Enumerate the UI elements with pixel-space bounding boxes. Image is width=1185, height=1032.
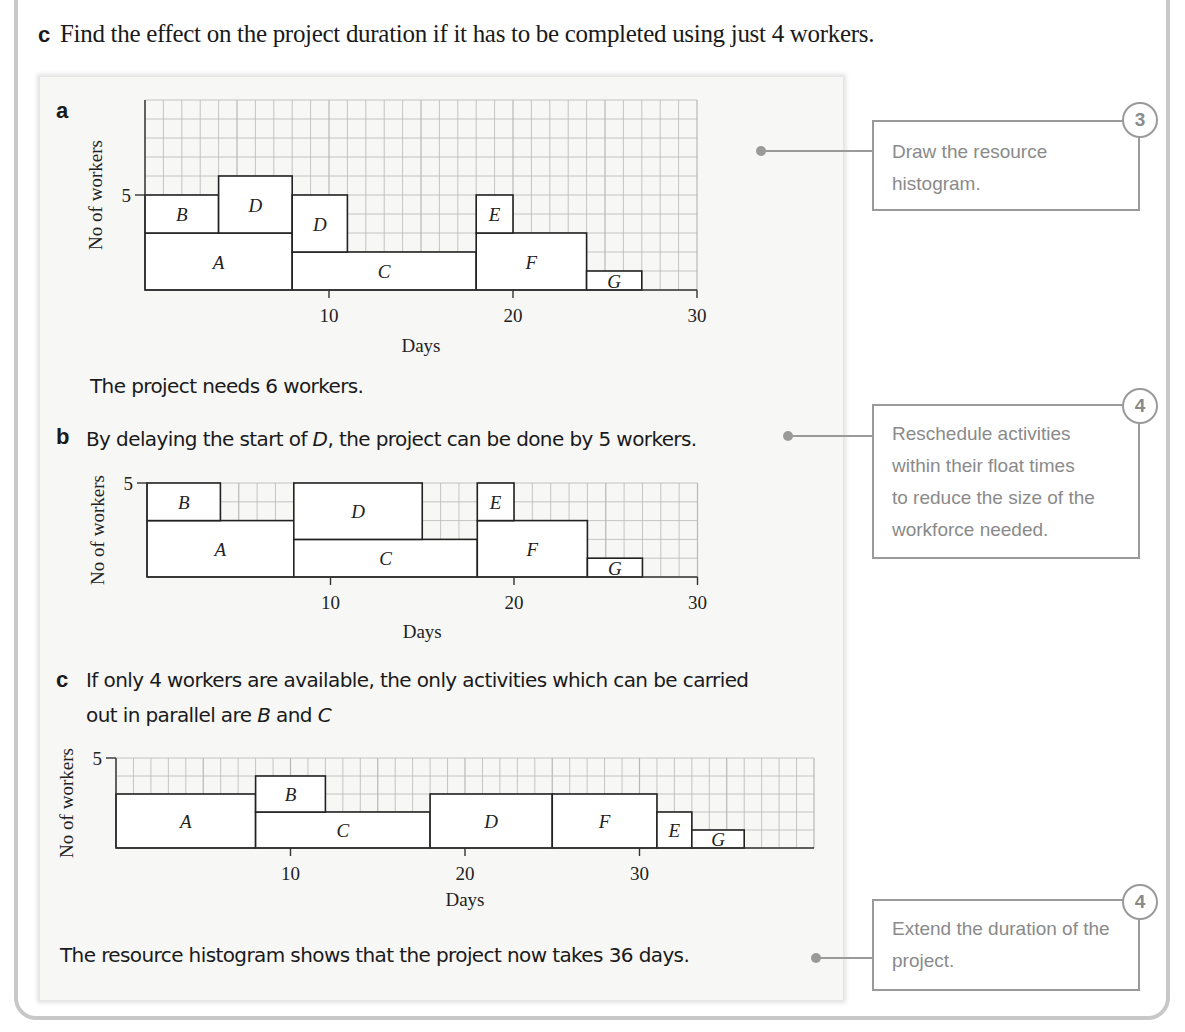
part-b-label: b (56, 424, 69, 450)
activity-label: F (598, 811, 611, 832)
part-c-line1: If only 4 workers are available, the onl… (86, 668, 748, 692)
activity-label: D (483, 811, 498, 832)
x-tick-label: 10 (320, 305, 339, 326)
text: out in parallel are (86, 703, 257, 727)
marks-badge-2: 4 (1122, 388, 1158, 424)
text-em: B (257, 703, 270, 727)
histogram-c: ACBDFEG5102030DaysNo of workers (56, 748, 814, 910)
marks-badge-3: 4 (1122, 884, 1158, 920)
callout-text: within their float times (892, 450, 1120, 482)
x-tick-label: 20 (504, 305, 523, 326)
x-tick-label: 30 (688, 592, 707, 613)
callout-3-connector (816, 957, 873, 959)
y-axis-label: No of workers (87, 475, 108, 585)
activity-label: D (248, 195, 263, 216)
callout-text: to reduce the size of the (892, 482, 1120, 514)
activity-label: E (488, 204, 501, 225)
histogram-a: ABDCDFEG5102030DaysNo of workers (85, 100, 707, 356)
callout-text: project. (892, 945, 1120, 977)
x-tick-label: 20 (456, 863, 475, 884)
x-tick-label: 30 (688, 305, 707, 326)
y-tick-label: 5 (122, 185, 132, 206)
callout-3: Extend the duration of the project. (872, 899, 1140, 991)
part-b-answer: By delaying the start of D, the project … (86, 427, 697, 451)
activity-label: G (607, 271, 621, 292)
part-a-answer: The project needs 6 workers. (90, 374, 363, 398)
callout-text: Draw the resource (892, 136, 1120, 168)
marks-badge-1: 3 (1122, 102, 1158, 138)
activity-label: G (711, 829, 725, 850)
activity-label: D (350, 501, 365, 522)
callout-text: Extend the duration of the (892, 913, 1120, 945)
part-c-label: c (56, 667, 68, 693)
callout-text: workforce needed. (892, 514, 1120, 546)
callout-1-connector (761, 150, 873, 152)
y-tick-label: 5 (124, 473, 134, 494)
text: , the project can be done by 5 workers. (327, 427, 696, 451)
callout-text: histogram. (892, 168, 1120, 200)
x-tick-label: 30 (630, 863, 649, 884)
activity-label: C (337, 820, 350, 841)
part-c-conclusion: The resource histogram shows that the pr… (60, 943, 689, 967)
activity-label: A (211, 252, 225, 273)
y-axis-label: No of workers (85, 140, 106, 250)
callout-text: Reschedule activities (892, 418, 1120, 450)
activity-label: G (608, 558, 622, 579)
text-em: C (318, 703, 331, 727)
activity-label: A (178, 811, 192, 832)
x-axis-label: Days (401, 335, 440, 356)
activity-label: F (526, 539, 539, 560)
activity-label: B (178, 492, 190, 513)
y-tick-label: 5 (93, 748, 103, 769)
x-tick-label: 10 (281, 863, 300, 884)
activity-label: D (312, 214, 327, 235)
callout-2-connector (788, 435, 873, 437)
x-tick-label: 20 (505, 592, 524, 613)
activity-label: F (525, 252, 538, 273)
activity-label: A (213, 539, 227, 560)
activity-label: E (489, 492, 502, 513)
callout-1: Draw the resource histogram. (872, 120, 1140, 211)
histogram-b: ABCDFEG5102030DaysNo of workers (87, 473, 707, 642)
x-axis-label: Days (445, 889, 484, 910)
x-axis-label: Days (403, 621, 442, 642)
text: By delaying the start of (86, 427, 313, 451)
y-axis-label: No of workers (56, 748, 77, 858)
activity-label: E (668, 820, 681, 841)
text-em: D (313, 427, 328, 451)
activity-label: C (379, 548, 392, 569)
text: and (270, 703, 317, 727)
activity-label: C (378, 261, 391, 282)
activity-label: B (285, 784, 297, 805)
activity-label: B (176, 204, 188, 225)
callout-2: Reschedule activities within their float… (872, 404, 1140, 559)
x-tick-label: 10 (321, 592, 340, 613)
part-c-line2: out in parallel are B and C (86, 703, 331, 727)
